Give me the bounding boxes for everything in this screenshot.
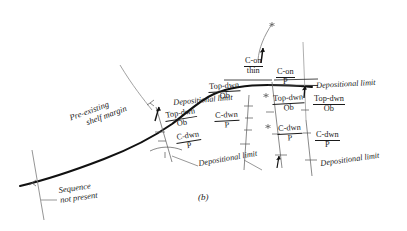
fraction-top-dwn-ob-d: Top-dwn Ob	[313, 95, 345, 114]
fraction-d1-denominator: Ob	[313, 105, 345, 114]
marker-line-d2	[306, 120, 312, 176]
fraction-c2-denominator: P	[278, 133, 303, 143]
leader-dl1	[172, 156, 198, 166]
star-c2	[266, 124, 271, 129]
fraction-c-dwn-p-d: C-dwn P	[315, 131, 340, 150]
figure-caption: (b)	[198, 192, 209, 202]
fraction-c-on-thin: C-on thin	[244, 57, 263, 76]
fraction-top-dwn-ob-b: Top-dwn Ob	[208, 81, 241, 101]
figure-caption-text: (b)	[198, 192, 209, 202]
fraction-c-on-p: C-on P	[276, 68, 295, 87]
fraction-top-dwn-ob-c: Top-dwn Ob	[272, 93, 305, 113]
onlap-curve	[258, 24, 272, 60]
figure-panel: Pre-existing shelf margin Sequence not p…	[0, 0, 407, 231]
fraction-c-dwn-p-b: C-dwn P	[214, 111, 240, 131]
fraction-c-on-denominator: thin	[244, 67, 263, 76]
star-c	[264, 93, 269, 98]
leader-dl2	[244, 160, 262, 170]
fraction-c-dwn-p-a: C-dwn P	[175, 130, 202, 152]
fraction-b1-denominator: Ob	[209, 91, 241, 101]
fraction-d2-denominator: P	[315, 141, 340, 150]
fraction-c1-denominator: Ob	[273, 103, 305, 113]
fraction-c-dwn-p-c: C-dwn P	[277, 124, 303, 144]
fraction-b2-denominator: P	[215, 120, 240, 130]
fraction-c-on-p-denominator: P	[276, 78, 295, 87]
shelf-margin-profile-curve	[20, 85, 312, 186]
marker-line-left	[32, 150, 44, 220]
